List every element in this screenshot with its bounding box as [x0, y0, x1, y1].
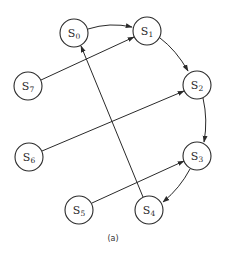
edge-s0-s1: [88, 25, 132, 29]
node-s1: S1: [133, 17, 161, 45]
node-s0: S0: [60, 19, 88, 47]
node-s5: S5: [65, 196, 93, 224]
node-s6: S6: [15, 143, 43, 171]
state-diagram: S0 S1 S2 S3 S4 S5 S6 S7 (a): [0, 0, 226, 255]
edge-s7-s1: [41, 37, 134, 80]
node-s7: S7: [14, 72, 42, 100]
figure-caption: (a): [107, 234, 118, 243]
node-s2: S2: [183, 71, 211, 99]
edge-s6-s2: [42, 91, 184, 151]
edge-s5-s3: [92, 161, 184, 203]
edge-s2-s3: [203, 98, 206, 142]
edge-s1-s2: [160, 38, 188, 71]
node-s3: S3: [183, 142, 211, 170]
node-s4: S4: [135, 196, 163, 224]
edge-s3-s4: [163, 169, 190, 202]
